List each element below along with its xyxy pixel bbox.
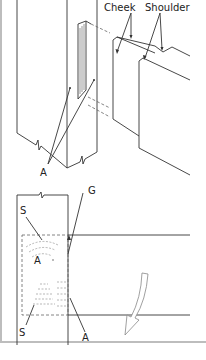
label-a-upper: A: [40, 167, 47, 178]
upper-view: Cheek Shoulder A: [17, 0, 190, 178]
label-a-top: A: [34, 255, 41, 266]
label-s-bottom: S: [19, 327, 25, 338]
joint-diagram: Cheek Shoulder A: [0, 0, 206, 360]
a-leaders-upper: [48, 79, 95, 164]
label-shoulder: Shoulder: [145, 2, 190, 13]
label-cheek: Cheek: [104, 2, 136, 13]
label-g: G: [88, 185, 96, 196]
lower-view: S A G S A: [17, 185, 190, 345]
rail-tenon: [113, 37, 190, 175]
diagram-frame: Cheek Shoulder A: [0, 0, 206, 360]
cheek-leaders: [116, 13, 133, 54]
leader-g: [68, 193, 83, 254]
stress-lines-bottom: [33, 282, 68, 306]
hidden-tenon: [22, 235, 68, 315]
post: [17, 0, 97, 168]
label-a-bottom: A: [82, 332, 89, 343]
shoulder-leaders: [143, 13, 164, 60]
mortise: [78, 21, 110, 117]
stress-arcs-top: [26, 241, 58, 260]
leader-s-top: [26, 217, 42, 240]
label-s-top: S: [20, 205, 26, 216]
curved-down-arrow: [125, 273, 148, 335]
